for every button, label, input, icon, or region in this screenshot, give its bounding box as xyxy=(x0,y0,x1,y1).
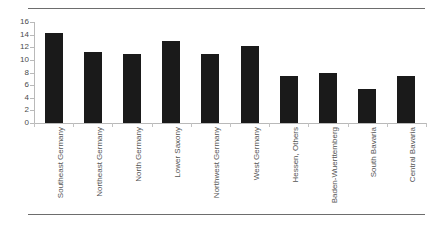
x-axis-label: Northeast Germany xyxy=(96,127,104,197)
x-axis-label: South Bavaria xyxy=(370,127,378,177)
y-tick-label: 10 xyxy=(20,56,29,64)
bar xyxy=(280,76,298,123)
x-axis-label: Hessen, Others xyxy=(292,127,300,183)
y-tick-mark xyxy=(30,73,34,74)
x-axis-label: Northwest Germany xyxy=(213,127,221,198)
y-tick-label: 4 xyxy=(25,94,29,102)
x-axis-label: Baden-Wuerttemberg xyxy=(331,127,339,203)
bar xyxy=(84,52,102,123)
bar xyxy=(358,89,376,123)
y-tick-mark xyxy=(30,98,34,99)
y-tick-label: 6 xyxy=(25,81,29,89)
bar xyxy=(319,73,337,124)
y-tick-mark xyxy=(30,47,34,48)
y-axis-line xyxy=(34,22,35,123)
y-tick-mark xyxy=(30,110,34,111)
bottom-border-rule xyxy=(28,214,425,215)
y-tick-label: 0 xyxy=(25,119,29,127)
bar xyxy=(162,41,180,123)
bar xyxy=(241,46,259,123)
y-tick-label: 8 xyxy=(25,69,29,77)
bar xyxy=(397,76,415,123)
x-tick-mark xyxy=(426,123,427,127)
y-tick-label: 14 xyxy=(20,31,29,39)
y-tick-label: 2 xyxy=(25,106,29,114)
plot-area: 0246810121416 xyxy=(34,22,426,123)
y-tick-mark xyxy=(30,35,34,36)
top-border-rule xyxy=(28,8,425,9)
y-tick-label: 16 xyxy=(20,18,29,26)
x-axis-labels: Southeast GermanyNortheast GermanyNorth … xyxy=(34,127,426,207)
bar xyxy=(201,54,219,123)
bar xyxy=(45,33,63,123)
y-tick-label: 12 xyxy=(20,43,29,51)
x-axis-label: North Germany xyxy=(135,127,143,182)
y-tick-mark xyxy=(30,60,34,61)
x-axis-label: Southeast Germany xyxy=(57,127,65,198)
chart-figure: 0246810121416 Southeast GermanyNortheast… xyxy=(0,0,441,225)
bar xyxy=(123,54,141,123)
y-tick-mark xyxy=(30,85,34,86)
x-axis-label: West Germany xyxy=(253,127,261,180)
x-axis-label: Central Bavaria xyxy=(409,127,417,182)
x-axis-label: Lower Saxony xyxy=(174,127,182,178)
y-tick-mark xyxy=(30,22,34,23)
